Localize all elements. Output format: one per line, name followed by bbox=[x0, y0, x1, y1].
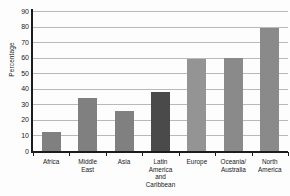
bar bbox=[115, 111, 134, 151]
x-axis-label-line: Latin bbox=[154, 158, 168, 165]
y-axis-tick-label: 60 bbox=[3, 54, 29, 61]
gridline bbox=[33, 11, 288, 12]
x-axis-label-line: Europe bbox=[187, 158, 208, 165]
bar bbox=[42, 132, 61, 151]
x-axis-label-line: East bbox=[81, 166, 94, 173]
y-axis-tick-label: 50 bbox=[3, 70, 29, 77]
gridline bbox=[33, 42, 288, 43]
gridline bbox=[33, 73, 288, 74]
x-axis-label-line: Africa bbox=[43, 158, 59, 165]
y-axis-tick-label: 0 bbox=[3, 148, 29, 155]
y-axis-line bbox=[31, 9, 33, 153]
x-axis-tick bbox=[288, 152, 289, 156]
y-axis-tick-label: 80 bbox=[3, 23, 29, 30]
x-axis-label-line: Oceania/ bbox=[221, 158, 247, 165]
x-axis-category-label: Oceania/Australia bbox=[215, 158, 251, 173]
gridline bbox=[33, 58, 288, 59]
y-axis-tick-label: 10 bbox=[3, 132, 29, 139]
bar bbox=[260, 28, 279, 151]
x-axis-label-line: America bbox=[149, 166, 172, 173]
x-axis-tick bbox=[252, 152, 253, 156]
y-axis-tick-label: 40 bbox=[3, 85, 29, 92]
bar bbox=[151, 92, 170, 151]
x-axis-category-labels: AfricaMiddleEastAsiaLatinAmericaandCarib… bbox=[33, 158, 288, 196]
plot-area bbox=[33, 11, 288, 151]
gridline bbox=[33, 89, 288, 90]
x-axis-label-line: America bbox=[258, 166, 281, 173]
bar bbox=[187, 59, 206, 151]
x-axis-label-line: Australia bbox=[221, 166, 246, 173]
bar-chart: Percentage 0102030405060708090 AfricaMid… bbox=[0, 0, 290, 196]
gridline bbox=[33, 27, 288, 28]
x-axis-tick bbox=[33, 152, 34, 156]
x-axis-category-label: NorthAmerica bbox=[252, 158, 288, 173]
x-axis-category-label: LatinAmericaandCaribbean bbox=[142, 158, 178, 188]
x-axis-category-label: MiddleEast bbox=[69, 158, 105, 173]
x-axis-label-line: Asia bbox=[118, 158, 130, 165]
x-axis-tick bbox=[106, 152, 107, 156]
x-axis-category-label: Africa bbox=[33, 158, 69, 166]
bar bbox=[224, 58, 243, 151]
y-axis-tick-label: 20 bbox=[3, 116, 29, 123]
y-axis-tick-label: 70 bbox=[3, 39, 29, 46]
x-axis-tick bbox=[215, 152, 216, 156]
x-axis-tick bbox=[179, 152, 180, 156]
x-axis-label-line: and bbox=[155, 173, 166, 180]
x-axis-category-label: Asia bbox=[106, 158, 142, 166]
y-axis-tick-label: 30 bbox=[3, 101, 29, 108]
x-axis-label-line: North bbox=[262, 158, 278, 165]
y-axis-tick-label: 90 bbox=[3, 8, 29, 15]
x-axis-tick bbox=[69, 152, 70, 156]
x-axis-tick bbox=[142, 152, 143, 156]
x-axis-label-line: Caribbean bbox=[146, 181, 176, 188]
y-axis-tick-labels: 0102030405060708090 bbox=[0, 0, 29, 196]
bar bbox=[78, 98, 97, 151]
x-axis-category-label: Europe bbox=[179, 158, 215, 166]
x-axis-label-line: Middle bbox=[78, 158, 97, 165]
